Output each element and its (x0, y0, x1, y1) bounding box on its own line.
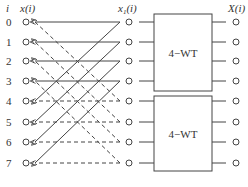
header-output: X(i) (227, 2, 245, 15)
row-index-label: 7 (6, 157, 12, 169)
butterfly-edges (35, 22, 120, 163)
input-node-icon (23, 78, 29, 84)
input-node-icon (23, 39, 29, 45)
row-index-label: 4 (6, 95, 12, 107)
header-intermediate: x1(i) (117, 2, 137, 16)
walsh-transform-flow-diagram: i x(i) x1(i) X(i) 01234567 4−WT4−WT (0, 0, 248, 187)
row-index-label: 1 (6, 36, 12, 48)
output-node-icon (233, 98, 239, 104)
output-node-icon (233, 160, 239, 166)
output-node-icon (233, 19, 239, 25)
intermediate-node-icon (126, 58, 132, 64)
row-index-label: 6 (6, 136, 12, 148)
header-index: i (6, 2, 9, 14)
wt-block-label: 4−WT (169, 128, 198, 140)
output-node-icon (233, 39, 239, 45)
input-node-icon (23, 119, 29, 125)
row-index-label: 0 (6, 16, 12, 28)
input-node-icon (23, 58, 29, 64)
intermediate-node-icon (126, 39, 132, 45)
input-node-icon (23, 98, 29, 104)
header-input: x(i) (19, 2, 36, 15)
row-index-label: 5 (6, 116, 12, 128)
intermediate-node-icon (126, 139, 132, 145)
input-node-icon (23, 160, 29, 166)
output-node-icon (233, 78, 239, 84)
wt-block-label: 4−WT (169, 47, 198, 59)
output-node-icon (233, 58, 239, 64)
intermediate-node-icon (126, 119, 132, 125)
intermediate-node-icon (126, 19, 132, 25)
row-index-label: 2 (6, 55, 12, 67)
transform-blocks: 4−WT4−WT (154, 14, 212, 171)
intermediate-node-icon (126, 160, 132, 166)
intermediate-node-icon (126, 98, 132, 104)
output-node-icon (233, 119, 239, 125)
output-node-icon (233, 139, 239, 145)
intermediate-node-icon (126, 78, 132, 84)
row-index-label: 3 (6, 75, 12, 87)
input-node-icon (23, 139, 29, 145)
input-node-icon (23, 19, 29, 25)
